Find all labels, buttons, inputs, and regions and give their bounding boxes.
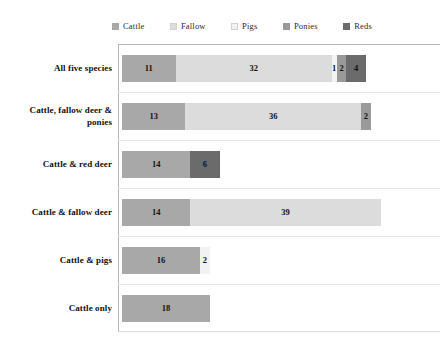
chart-row xyxy=(0,92,440,140)
legend-item-cattle[interactable]: Cattle xyxy=(112,21,145,31)
legend-item-label: Fallow xyxy=(181,21,206,31)
legend-item-ponies[interactable]: Ponies xyxy=(283,21,318,31)
chart-row xyxy=(0,188,440,236)
chart-row xyxy=(0,284,440,332)
chart-rows: All five species1132124Cattle, fallow de… xyxy=(0,44,440,332)
legend-swatch-icon xyxy=(112,23,119,30)
legend-item-label: Cattle xyxy=(123,21,145,31)
chart-row xyxy=(0,44,440,92)
legend-item-label: Pigs xyxy=(242,21,257,31)
chart-row xyxy=(0,236,440,284)
legend-item-pigs[interactable]: Pigs xyxy=(231,21,257,31)
legend-item-fallow[interactable]: Fallow xyxy=(170,21,206,31)
chart-legend: CattleFallowPigsPoniesReds xyxy=(112,18,372,34)
legend-swatch-icon xyxy=(170,23,177,30)
legend-item-label: Reds xyxy=(354,21,372,31)
legend-item-label: Ponies xyxy=(294,21,318,31)
chart-row xyxy=(0,140,440,188)
legend-swatch-icon xyxy=(343,23,350,30)
legend-item-reds[interactable]: Reds xyxy=(343,21,372,31)
legend-swatch-icon xyxy=(231,23,238,30)
legend-swatch-icon xyxy=(283,23,290,30)
stacked-bar-chart: CattleFallowPigsPoniesReds All five spec… xyxy=(0,0,440,348)
